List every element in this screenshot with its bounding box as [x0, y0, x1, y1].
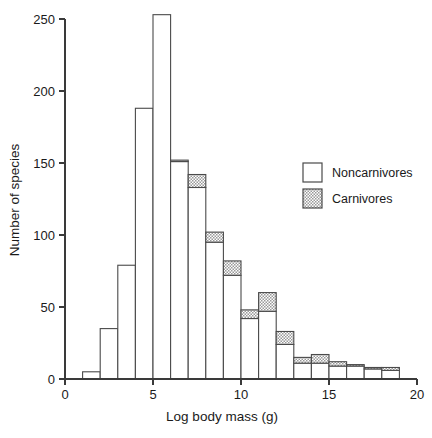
histogram-bar	[241, 310, 259, 379]
histogram-bar	[382, 367, 400, 379]
x-tick-label: 5	[149, 387, 156, 402]
bar-segment-noncarnivores	[276, 344, 294, 379]
bar-segment-noncarnivores	[259, 311, 277, 379]
y-tick-label: 250	[33, 12, 55, 27]
legend-label: Noncarnivores	[332, 166, 413, 180]
bar-segment-noncarnivores	[153, 15, 171, 379]
histogram-bar	[206, 232, 224, 379]
histogram-bar	[135, 108, 153, 379]
legend-group: NoncarnivoresCarnivores	[303, 163, 413, 208]
bar-segment-carnivores	[188, 175, 206, 188]
histogram-bar	[100, 329, 118, 379]
histogram-bar	[276, 331, 294, 379]
hatched-swatch	[303, 189, 322, 208]
bar-segment-noncarnivores	[294, 363, 312, 379]
histogram-bar	[294, 357, 312, 379]
bar-segment-noncarnivores	[364, 369, 382, 379]
bar-segment-carnivores	[223, 261, 241, 275]
x-tick-label: 20	[410, 387, 424, 402]
x-tick-label: 0	[61, 387, 68, 402]
legend-label: Carnivores	[332, 192, 392, 206]
bar-segment-carnivores	[347, 365, 365, 366]
bar-segment-carnivores	[241, 310, 259, 319]
histogram-svg: 05010015020025005101520 NoncarnivoresCar…	[0, 0, 432, 438]
bar-segment-carnivores	[276, 331, 294, 344]
y-tick-label: 150	[33, 156, 55, 171]
bar-segment-carnivores	[364, 367, 382, 368]
bar-segment-noncarnivores	[329, 366, 347, 379]
bar-segment-carnivores	[259, 293, 277, 312]
histogram-bar	[188, 175, 206, 379]
histogram-bar	[118, 265, 136, 379]
x-axis-title: Log body mass (g)	[166, 409, 278, 424]
histogram-bar	[153, 15, 171, 379]
histogram-bar	[311, 355, 329, 379]
bar-segment-noncarnivores	[135, 108, 153, 379]
bar-segment-noncarnivores	[241, 319, 259, 379]
bar-segment-carnivores	[382, 367, 400, 370]
bar-segment-noncarnivores	[223, 275, 241, 379]
y-tick-label: 200	[33, 84, 55, 99]
bar-segment-carnivores	[294, 357, 312, 363]
y-tick-label: 50	[41, 300, 55, 315]
bar-segment-carnivores	[311, 355, 329, 364]
histogram-bar	[171, 160, 189, 379]
histogram-bar	[364, 367, 382, 379]
bar-segment-noncarnivores	[83, 372, 101, 379]
x-tick-label: 10	[234, 387, 248, 402]
bar-segment-carnivores	[171, 160, 189, 161]
bar-segment-noncarnivores	[382, 370, 400, 379]
bar-segment-noncarnivores	[188, 187, 206, 379]
bar-segment-noncarnivores	[171, 162, 189, 379]
x-tick-label: 15	[322, 387, 336, 402]
y-axis-title: Number of species	[7, 143, 22, 256]
histogram-bar	[347, 365, 365, 379]
chart-figure: 05010015020025005101520 NoncarnivoresCar…	[0, 0, 432, 438]
bar-segment-noncarnivores	[311, 363, 329, 379]
histogram-bar	[223, 261, 241, 379]
y-tick-label: 100	[33, 228, 55, 243]
y-tick-label: 0	[48, 372, 55, 387]
bar-segment-noncarnivores	[118, 265, 136, 379]
bar-segment-noncarnivores	[206, 242, 224, 379]
bar-segment-noncarnivores	[347, 366, 365, 379]
bar-segment-carnivores	[329, 362, 347, 366]
histogram-bar	[83, 372, 101, 379]
bar-segment-noncarnivores	[100, 329, 118, 379]
bar-segment-carnivores	[206, 232, 224, 242]
histogram-bar	[259, 293, 277, 379]
histogram-bar	[329, 362, 347, 379]
empty-swatch	[303, 163, 322, 182]
